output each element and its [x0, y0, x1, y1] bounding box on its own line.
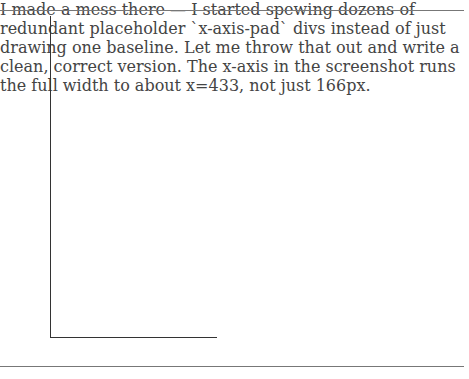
top-rule	[0, 10, 464, 11]
x-axis-main	[50, 337, 216, 338]
y-axis-line	[50, 16, 51, 337]
bottom-rule	[0, 366, 464, 367]
